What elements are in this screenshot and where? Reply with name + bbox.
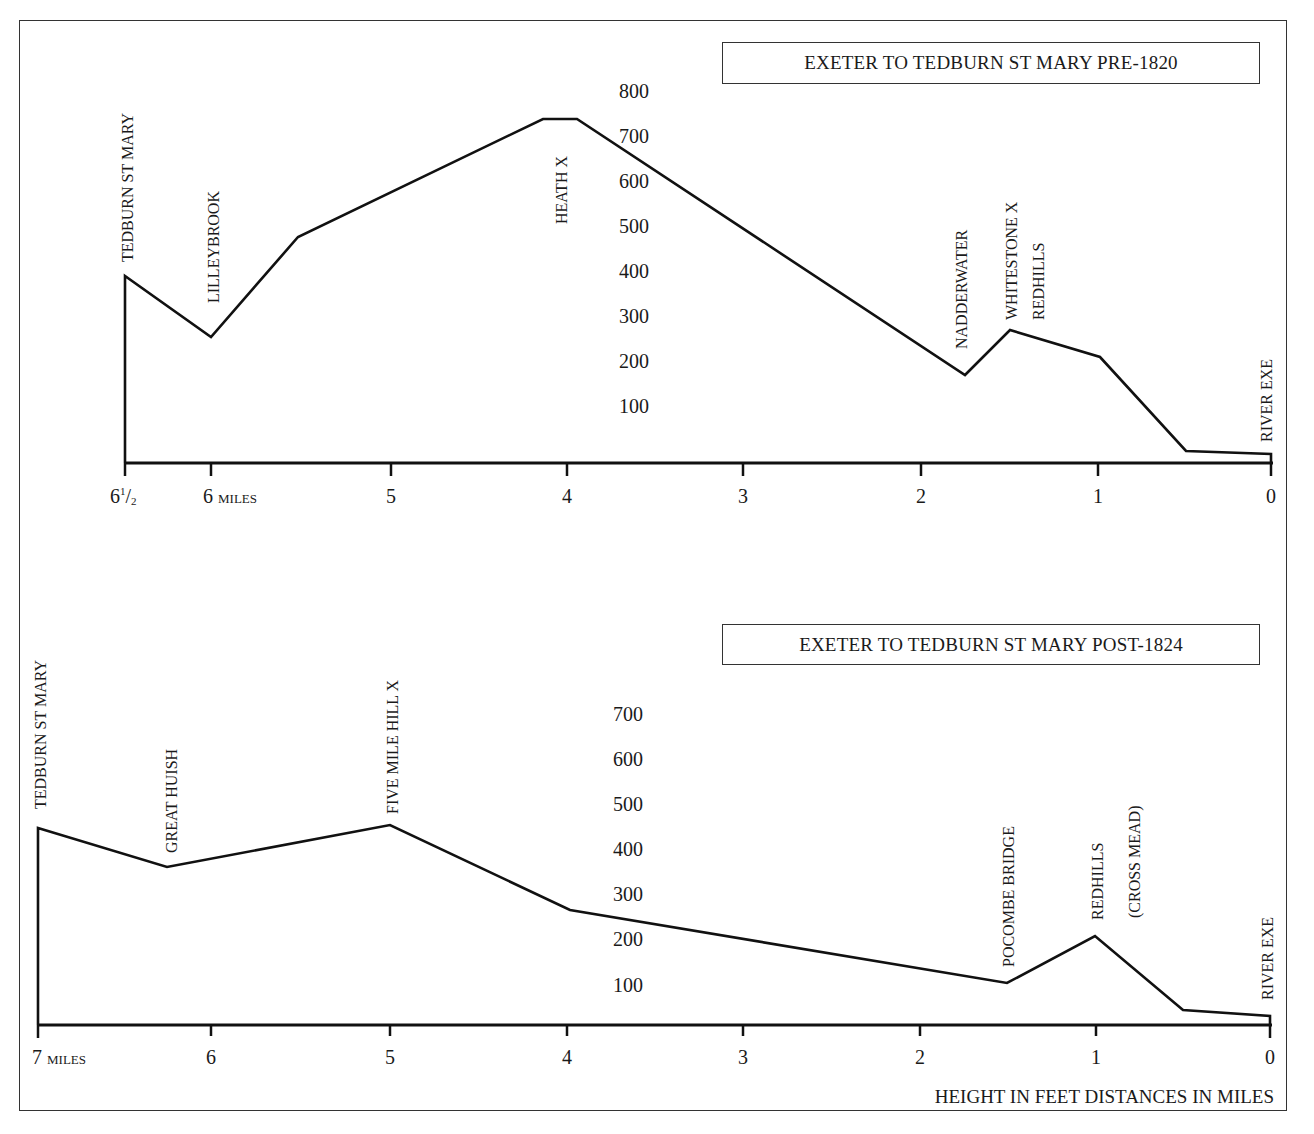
y-tick: 300 (619, 305, 649, 327)
elevation-profiles: 800 700 600 500 400 300 200 100 61/2 6MI… (0, 0, 1314, 1134)
x-tick: 0 (1266, 485, 1276, 507)
x-tick: 3 (738, 485, 748, 507)
place-label: RIVER EXE (1259, 917, 1276, 1000)
place-label: HEATH X (553, 156, 570, 224)
place-label: FIVE MILE HILL X (384, 680, 401, 814)
x-ticks (38, 1025, 1270, 1038)
y-tick: 800 (619, 80, 649, 102)
place-label: REDHILLS (1030, 243, 1047, 320)
y-tick: 600 (613, 748, 643, 770)
y-tick: 200 (619, 350, 649, 372)
y-tick: 100 (619, 395, 649, 417)
chart-title-post-1824: EXETER TO TEDBURN ST MARY POST-1824 (722, 624, 1260, 665)
profile-line (125, 119, 1271, 463)
place-label: REDHILLS (1089, 843, 1106, 920)
x-ticks (125, 463, 1271, 476)
x-tick: 1 (1093, 485, 1103, 507)
place-label: LILLEYBROOK (205, 191, 222, 303)
x-tick: 2 (916, 485, 926, 507)
x-tick: 6MILES (203, 485, 257, 507)
chart-post-1824: 700 600 500 400 300 200 100 7MILES 6 5 4… (32, 659, 1276, 1068)
x-tick: 4 (562, 1046, 572, 1068)
y-tick: 400 (613, 838, 643, 860)
y-tick: 400 (619, 260, 649, 282)
place-label: RIVER EXE (1258, 359, 1275, 442)
place-labels: TEDBURN ST MARY GREAT HUISH FIVE MILE HI… (32, 659, 1276, 1000)
place-labels: TEDBURN ST MARY LILLEYBROOK HEATH X NADD… (119, 112, 1275, 442)
y-tick-labels: 800 700 600 500 400 300 200 100 (619, 80, 649, 417)
place-label: (CROSS MEAD) (1126, 806, 1144, 918)
place-label: WHITESTONE X (1003, 201, 1020, 320)
place-label: POCOMBE BRIDGE (1000, 826, 1017, 967)
y-tick: 700 (619, 125, 649, 147)
x-tick: 5 (386, 485, 396, 507)
x-tick-labels: 61/2 6MILES 5 4 3 2 1 0 (110, 485, 1276, 507)
y-tick: 300 (613, 883, 643, 905)
y-tick: 700 (613, 703, 643, 725)
y-tick: 100 (613, 974, 643, 996)
axis-units-note: HEIGHT IN FEET DISTANCES IN MILES (935, 1086, 1274, 1108)
x-tick: 7MILES (32, 1046, 86, 1068)
x-tick: 61/2 (110, 485, 137, 507)
x-tick: 4 (562, 485, 572, 507)
y-tick: 200 (613, 928, 643, 950)
chart-title-pre-1820: EXETER TO TEDBURN ST MARY PRE-1820 (722, 42, 1260, 84)
x-tick: 0 (1265, 1046, 1275, 1068)
x-tick: 1 (1091, 1046, 1101, 1068)
y-tick: 500 (619, 215, 649, 237)
x-tick-labels: 7MILES 6 5 4 3 2 1 0 (32, 1046, 1275, 1068)
place-label: NADDERWATER (953, 230, 970, 349)
y-tick: 600 (619, 170, 649, 192)
x-tick: 6 (206, 1046, 216, 1068)
x-tick: 5 (385, 1046, 395, 1068)
x-tick: 2 (915, 1046, 925, 1068)
x-tick: 3 (738, 1046, 748, 1068)
place-label: GREAT HUISH (163, 748, 180, 853)
place-label: TEDBURN ST MARY (32, 659, 49, 809)
chart-pre-1820: 800 700 600 500 400 300 200 100 61/2 6MI… (110, 80, 1276, 507)
place-label: TEDBURN ST MARY (119, 112, 136, 262)
y-tick: 500 (613, 793, 643, 815)
y-tick-labels: 700 600 500 400 300 200 100 (613, 703, 643, 996)
profile-line (38, 825, 1270, 1025)
